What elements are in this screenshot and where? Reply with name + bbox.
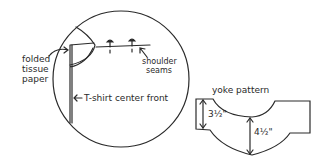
arrow-center-front [74, 95, 82, 101]
dimension-label-center: 4½" [254, 128, 273, 137]
dimension-arrow-center [247, 118, 253, 154]
shoulder-seams-label-1: shoulder [142, 58, 177, 66]
magnifier-circle [53, 11, 189, 147]
neckline-curve [70, 27, 95, 65]
folded-tissue-label-2: tissue [22, 65, 49, 74]
yoke-pattern-shape [196, 99, 310, 155]
shoulder-seams-label-2: seams [146, 67, 172, 75]
folded-tissue-label-1: folded [22, 55, 50, 64]
arrow-shoulder-seams [140, 48, 147, 57]
center-front-label: T-shirt center front [84, 94, 168, 103]
diagram-canvas [0, 0, 324, 162]
shoulder-seam-line [96, 45, 150, 47]
yoke-pattern-title: yoke pattern [212, 86, 269, 95]
dimension-arrow-left [200, 100, 206, 128]
folded-tissue-label-3: paper [22, 75, 48, 84]
dimension-label-left: 3½" [208, 110, 227, 119]
